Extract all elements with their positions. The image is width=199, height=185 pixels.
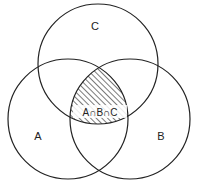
label-b: B xyxy=(157,130,164,142)
label-c: C xyxy=(91,20,99,32)
venn-diagram: C A B A∩B∩C xyxy=(0,0,199,185)
label-intersection-abc: A∩B∩C xyxy=(83,107,118,118)
label-a: A xyxy=(34,130,42,142)
